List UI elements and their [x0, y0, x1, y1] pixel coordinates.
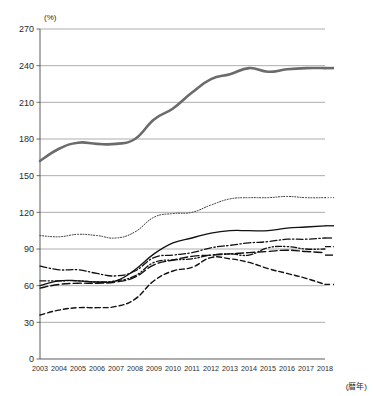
- x-tick-label-2018: 2018: [317, 364, 333, 373]
- x-tick-label-2006: 2006: [89, 364, 105, 373]
- y-tick-label-150: 150: [19, 171, 34, 181]
- y-tick-label-0: 0: [29, 354, 34, 364]
- x-tick-label-2012: 2012: [203, 364, 219, 373]
- y-axis-unit-label: (%): [44, 13, 57, 22]
- x-tick-label-2014: 2014: [241, 364, 257, 373]
- x-tick-label-2017: 2017: [298, 364, 314, 373]
- y-tick-label-90: 90: [24, 244, 34, 254]
- x-tick-label-2015: 2015: [260, 364, 276, 373]
- x-tick-label-2008: 2008: [127, 364, 143, 373]
- y-tick-label-60: 60: [24, 281, 34, 291]
- x-tick-label-2003: 2003: [32, 364, 48, 373]
- y-tick-label-180: 180: [19, 134, 34, 144]
- x-tick-label-2013: 2013: [222, 364, 238, 373]
- chart-background: [0, 0, 374, 396]
- y-tick-label-240: 240: [19, 61, 34, 71]
- y-tick-label-120: 120: [19, 208, 34, 218]
- x-tick-label-2004: 2004: [51, 364, 67, 373]
- x-tick-label-2016: 2016: [279, 364, 295, 373]
- y-tick-label-30: 30: [24, 318, 34, 328]
- x-tick-label-2010: 2010: [165, 364, 181, 373]
- x-axis-unit-label: (暦年): [346, 381, 368, 391]
- y-tick-label-210: 210: [19, 98, 34, 108]
- chart-container: 2702402101801501209060300 20032004200520…: [0, 0, 374, 396]
- x-tick-label-2005: 2005: [70, 364, 86, 373]
- x-tick-label-2009: 2009: [146, 364, 162, 373]
- x-tick-label-2011: 2011: [184, 364, 199, 373]
- y-tick-label-270: 270: [19, 24, 34, 34]
- line-chart: 2702402101801501209060300 20032004200520…: [0, 0, 374, 396]
- x-tick-label-2007: 2007: [108, 364, 124, 373]
